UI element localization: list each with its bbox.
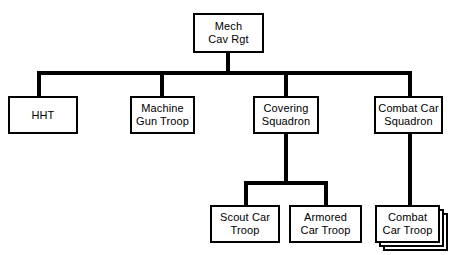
node-label-covering-squadron: Covering Squadron (260, 102, 313, 128)
connector-drop-scout-car-troop (244, 181, 248, 206)
connector-drop-hht (37, 71, 41, 96)
node-armored-car-troop[interactable]: Armored Car Troop (289, 205, 362, 243)
connector-drop-armored-car-troop (324, 181, 328, 206)
connector-drop-covering-squadron (284, 71, 288, 96)
connector-combat-car-squadron-stem (408, 134, 412, 206)
node-combat-car-squadron[interactable]: Combat Car Squadron (374, 96, 443, 134)
connector-drop-combat-car-squadron (408, 71, 412, 96)
node-combat-car-troop[interactable]: Combat Car Troop (375, 205, 440, 243)
node-mech-cav-rgt[interactable]: Mech Cav Rgt (193, 13, 264, 53)
node-covering-squadron[interactable]: Covering Squadron (253, 96, 319, 134)
node-hht[interactable]: HHT (8, 96, 78, 134)
node-label-armored-car-troop: Armored Car Troop (299, 211, 353, 237)
connector-drop-machine-gun-troop (160, 71, 164, 96)
connector-level2-bus (37, 71, 412, 75)
node-label-machine-gun-troop: Machine Gun Troop (134, 102, 191, 128)
node-machine-gun-troop[interactable]: Machine Gun Troop (130, 96, 195, 134)
org-chart-canvas: Mech Cav Rgt HHT Machine Gun Troop Cover… (0, 0, 453, 255)
connector-covering-squadron-stem (284, 134, 288, 182)
node-label-scout-car-troop: Scout Car Troop (218, 211, 272, 237)
connector-level3-bus (244, 181, 328, 185)
node-scout-car-troop[interactable]: Scout Car Troop (210, 205, 280, 243)
node-label-mech-cav-rgt: Mech Cav Rgt (206, 20, 250, 46)
node-label-combat-car-troop: Combat Car Troop (381, 211, 435, 237)
node-label-combat-car-squadron: Combat Car Squadron (376, 102, 440, 128)
node-label-hht: HHT (30, 109, 57, 122)
